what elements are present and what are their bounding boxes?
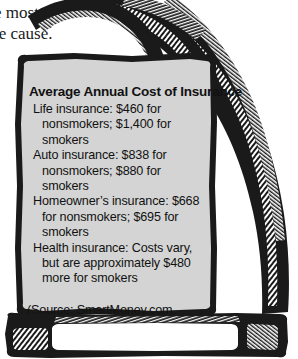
sign-title: Average Annual Cost of Insurance bbox=[29, 84, 207, 100]
body-copy-fragment: e most le cause. bbox=[0, 2, 144, 44]
ballot-box-slot-icon bbox=[4, 312, 292, 358]
illustration-page: e most le cause. bbox=[0, 0, 298, 359]
list-item: Health insurance: Costs vary, but are ap… bbox=[33, 241, 207, 287]
insurance-cost-sign: Average Annual Cost of Insurance Life in… bbox=[14, 52, 219, 318]
body-copy-line-2: le cause. bbox=[0, 23, 144, 44]
cost-list: Life insurance: $460 for nonsmokers; $1,… bbox=[26, 102, 207, 287]
list-item: Life insurance: $460 for nonsmokers; $1,… bbox=[33, 102, 207, 148]
sign-content: Average Annual Cost of Insurance Life in… bbox=[26, 64, 207, 308]
list-item: Homeowner’s insurance: $668 for nonsmoke… bbox=[33, 194, 207, 240]
list-item: Auto insurance: $838 for nonsmokers; $88… bbox=[33, 148, 207, 194]
body-copy-line-1: e most bbox=[0, 2, 144, 23]
